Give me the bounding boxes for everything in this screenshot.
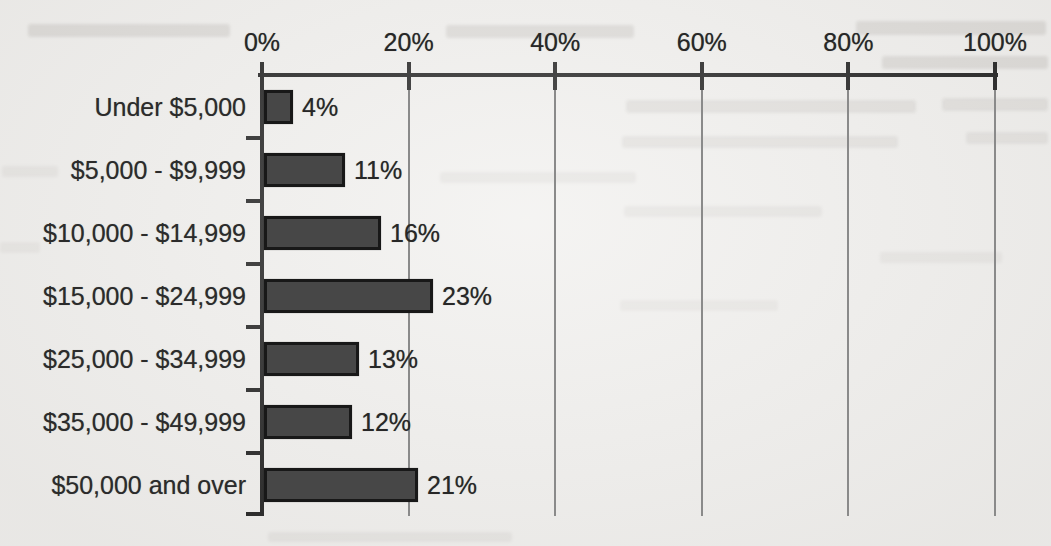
x-axis-tick [993,62,997,90]
x-axis-tick [407,62,411,90]
gridline [554,90,556,516]
category-label: $50,000 and over [0,469,246,501]
x-axis-tick [700,62,704,90]
x-axis-tick-label: 60% [677,28,727,57]
y-axis-tick [246,136,262,140]
category-label: Under $5,000 [0,91,246,123]
bar [264,468,418,502]
value-label: 11% [354,153,402,187]
bar [264,405,352,439]
x-axis-line [258,73,998,77]
value-label: 4% [302,90,338,124]
gridline [847,90,849,516]
bar [264,216,381,250]
category-label: $35,000 - $49,999 [0,406,246,438]
category-label: $25,000 - $34,999 [0,343,246,375]
income-distribution-bar-chart: 0%20%40%60%80%100%Under $5,0004%$5,000 -… [0,0,1051,546]
x-axis-tick-label: 100% [963,28,1027,57]
gridline [701,90,703,516]
y-axis-tick [246,388,262,392]
value-label: 12% [361,405,411,439]
x-axis-tick-label: 80% [823,28,873,57]
bar [264,153,345,187]
category-label: $10,000 - $14,999 [0,217,246,249]
y-axis-tick [246,262,262,266]
x-axis-tick-label: 40% [530,28,580,57]
bar [264,90,293,124]
x-axis-tick [260,62,264,90]
y-axis-tick [246,451,262,455]
x-axis-tick [553,62,557,90]
value-label: 23% [442,279,492,313]
y-axis-tick [246,325,262,329]
bar [264,342,359,376]
x-axis-tick [846,62,850,90]
category-label: $15,000 - $24,999 [0,280,246,312]
y-axis-tick [246,199,262,203]
category-label: $5,000 - $9,999 [0,154,246,186]
value-label: 13% [368,342,418,376]
value-label: 21% [427,468,477,502]
x-axis-tick-label: 20% [384,28,434,57]
bar [264,279,433,313]
value-label: 16% [390,216,440,250]
y-axis-tick [246,512,262,516]
x-axis-tick-label: 0% [244,28,280,57]
scanned-book-page: 0%20%40%60%80%100%Under $5,0004%$5,000 -… [0,0,1051,546]
gridline [994,90,996,516]
